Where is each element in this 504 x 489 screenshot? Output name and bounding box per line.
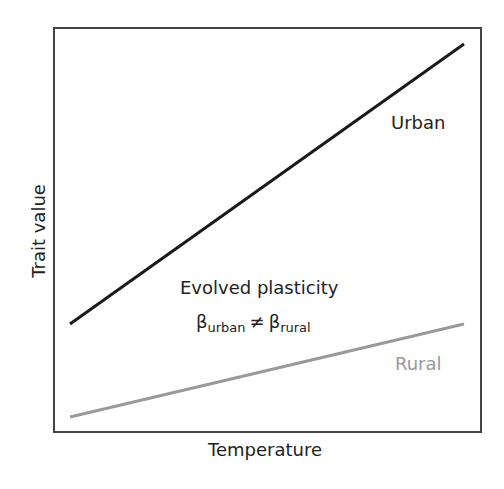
beta-rural-symbol: β bbox=[269, 311, 281, 332]
beta-urban-symbol: β bbox=[196, 311, 208, 332]
urban-label: Urban bbox=[391, 112, 445, 133]
y-axis-label: Trait value bbox=[28, 184, 49, 279]
beta-formula: βurban≠βrural bbox=[196, 311, 311, 335]
rural-label: Rural bbox=[395, 353, 442, 374]
x-axis-label: Temperature bbox=[207, 439, 322, 460]
beta-urban-subscript: urban bbox=[208, 320, 246, 335]
not-equal-symbol: ≠ bbox=[250, 311, 265, 332]
chart: Urban Rural Evolved plasticity βurban≠βr… bbox=[0, 0, 504, 489]
annotation-title: Evolved plasticity bbox=[180, 277, 339, 298]
beta-rural-subscript: rural bbox=[280, 320, 311, 335]
